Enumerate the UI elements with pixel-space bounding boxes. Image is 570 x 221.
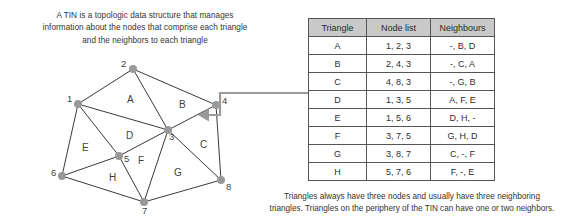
node-list-cell: 4, 8, 3 [367,73,431,91]
triangle-cell: D [309,91,367,109]
triangle-cell: A [309,37,367,55]
tin-node-8 [217,176,225,184]
neighbours-cell: D, H, - [431,109,495,127]
table-row: B2, 4, 3-, C, A [309,55,495,73]
triangle-label-H: H [109,173,116,183]
connector-line [209,93,315,115]
triangle-label-E: E [82,143,89,153]
triangle-cell: F [309,127,367,145]
node-list-cell: 1, 5, 6 [367,109,431,127]
triangle-cell: B [309,55,367,73]
triangle-cell: H [309,163,367,181]
table-row: F3, 7, 5G, H, D [309,127,495,145]
tin-table: Triangle Node list Neighbours A1, 2, 3-,… [308,18,495,181]
table-row: C4, 8, 3-, G, B [309,73,495,91]
node-list-cell: 5, 7, 6 [367,163,431,181]
neighbours-cell: C, -, F [431,145,495,163]
triangle-label-B: B [179,100,186,110]
table-row: D1, 3, 5A, F, E [309,91,495,109]
node-list-cell: 1, 3, 5 [367,91,431,109]
node-list-cell: 1, 2, 3 [367,37,431,55]
column-header-triangle: Triangle [309,19,367,37]
table-body: A1, 2, 3-, B, DB2, 4, 3-, C, AC4, 8, 3-,… [309,37,495,181]
node-list-cell: 3, 7, 5 [367,127,431,145]
triangle-label-A: A [127,95,134,105]
node-list-cell: 2, 4, 3 [367,55,431,73]
neighbours-cell: -, C, A [431,55,495,73]
triangle-cell: C [309,73,367,91]
tin-node-6 [58,172,66,180]
table-row: H5, 7, 6F, -, E [309,163,495,181]
arrowhead-icon [198,109,209,122]
triangle-label-G: G [174,168,182,178]
neighbours-cell: G, H, D [431,127,495,145]
tin-node-2 [129,65,137,73]
table-row: G3, 8, 7C, -, F [309,145,495,163]
triangle-label-F: F [138,156,144,166]
tin-node-label-1: 1 [67,94,72,104]
neighbours-cell: A, F, E [431,91,495,109]
tin-node-label-3: 3 [169,132,174,142]
tin-node-label-5: 5 [124,154,129,164]
node-list-cell: 3, 8, 7 [367,145,431,163]
table-row: E1, 5, 6D, H, - [309,109,495,127]
connector-arrow [195,85,320,145]
neighbours-cell: F, -, E [431,163,495,181]
triangle-cell: G [309,145,367,163]
tin-edge [78,104,168,130]
tin-node-label-7: 7 [142,206,147,216]
neighbours-cell: -, G, B [431,73,495,91]
tin-edge [62,104,78,176]
bottom-caption-line-2: triangles. Triangles on the periphery of… [256,203,568,215]
column-header-node-list: Node list [367,19,431,37]
table-header-row: Triangle Node list Neighbours [309,19,495,37]
table-row: A1, 2, 3-, B, D [309,37,495,55]
slide-canvas: A TIN is a topologic data structure that… [0,0,570,221]
tin-node-5 [115,152,123,160]
triangle-label-D: D [126,131,133,141]
column-header-neighbours: Neighbours [431,19,495,37]
tin-edge [78,69,133,104]
tin-edge [133,69,168,130]
tin-table-container: Triangle Node list Neighbours A1, 2, 3-,… [308,18,494,181]
tin-node-label-2: 2 [121,59,126,69]
neighbours-cell: -, B, D [431,37,495,55]
triangle-cell: E [309,109,367,127]
bottom-caption: Triangles always have three nodes and us… [256,191,568,215]
bottom-caption-line-1: Triangles always have three nodes and us… [256,191,568,203]
tin-node-label-8: 8 [226,182,231,192]
tin-node-label-6: 6 [51,168,56,178]
tin-edge [144,180,221,202]
tin-node-1 [74,100,82,108]
